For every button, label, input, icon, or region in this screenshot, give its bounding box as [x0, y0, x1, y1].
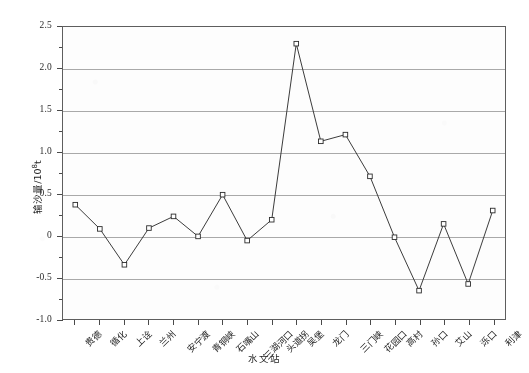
data-point-marker — [196, 234, 201, 239]
y-tick-label: 2.5 — [0, 20, 52, 30]
data-series — [63, 27, 505, 319]
data-point-marker — [245, 238, 250, 243]
x-tick-label: 上诠 — [132, 327, 154, 349]
x-tick-label: 循化 — [107, 327, 129, 349]
x-tick-label: 泺口 — [477, 327, 499, 349]
series-line — [75, 44, 492, 291]
x-tick-label: 利津 — [502, 327, 524, 349]
x-tick-label: 兰州 — [157, 327, 179, 349]
plot-area — [62, 26, 506, 320]
x-tick-label: 贵德 — [83, 327, 105, 349]
x-tick — [74, 320, 75, 325]
data-point-marker — [490, 208, 495, 213]
x-tick-label: 艾山 — [453, 327, 475, 349]
y-tick-label: -0.5 — [0, 272, 52, 282]
data-point-marker — [171, 214, 176, 219]
x-tick — [272, 320, 273, 325]
y-axis-title-exponent: 8 — [31, 163, 39, 167]
x-tick — [222, 320, 223, 325]
y-tick-label: 0 — [0, 230, 52, 240]
chart-page: 输沙量/108t 2.52.01.51.00.50-0.5-1.0 贵德循化上诠… — [0, 0, 529, 373]
data-point-marker — [368, 174, 373, 179]
data-point-marker — [73, 202, 78, 207]
x-tick — [370, 320, 371, 325]
x-tick — [296, 320, 297, 325]
x-tick — [395, 320, 396, 325]
x-tick — [99, 320, 100, 325]
y-axis-title: 输沙量/108t — [30, 160, 44, 214]
x-tick — [420, 320, 421, 325]
x-tick — [148, 320, 149, 325]
x-tick-label: 龙门 — [329, 327, 351, 349]
y-tick-label: 1.5 — [0, 104, 52, 114]
data-point-marker — [417, 288, 422, 293]
x-tick — [346, 320, 347, 325]
data-point-marker — [319, 139, 324, 144]
x-tick — [444, 320, 445, 325]
x-tick — [321, 320, 322, 325]
data-point-marker — [220, 192, 225, 197]
y-axis-title-unit: t — [32, 160, 43, 164]
x-tick-label: 吴堡 — [305, 327, 327, 349]
y-tick-label: -1.0 — [0, 314, 52, 324]
x-tick — [124, 320, 125, 325]
data-point-marker — [147, 226, 152, 231]
x-tick — [469, 320, 470, 325]
data-point-marker — [466, 282, 471, 287]
data-point-marker — [392, 235, 397, 240]
data-point-marker — [98, 227, 103, 232]
data-point-marker — [441, 222, 446, 227]
x-tick-label: 孙口 — [428, 327, 450, 349]
x-tick — [494, 320, 495, 325]
data-point-marker — [122, 262, 127, 267]
y-tick-label: 1.0 — [0, 146, 52, 156]
x-tick-label: 高村 — [403, 327, 425, 349]
data-point-marker — [294, 41, 299, 46]
y-tick-label: 2.0 — [0, 62, 52, 72]
data-point-marker — [269, 217, 274, 222]
data-point-marker — [343, 132, 348, 137]
y-tick-label: 0.5 — [0, 188, 52, 198]
x-tick — [173, 320, 174, 325]
x-tick — [198, 320, 199, 325]
x-axis-title: 水文站 — [0, 351, 529, 365]
x-tick — [247, 320, 248, 325]
y-tick-major — [57, 320, 63, 321]
